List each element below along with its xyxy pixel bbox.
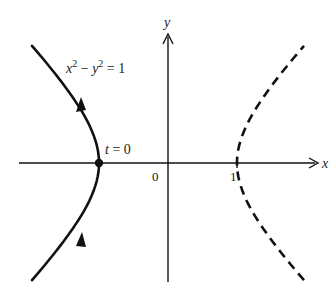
eq-minus-y: − [77, 61, 92, 76]
hyperbola-diagram: x y 1 0 t = 0 x2 − y2 = 1 [0, 0, 332, 299]
equation-label: x2 − y2 = 1 [65, 58, 125, 76]
tick-label-one: 1 [230, 169, 237, 184]
direction-arrow-lower-icon [76, 232, 86, 247]
origin-label: 0 [152, 169, 159, 184]
x-axis-label: x [321, 156, 329, 171]
vertex-point [95, 159, 103, 167]
point-label: t = 0 [105, 142, 131, 157]
y-axis [163, 34, 173, 282]
y-axis-label: y [162, 15, 171, 30]
